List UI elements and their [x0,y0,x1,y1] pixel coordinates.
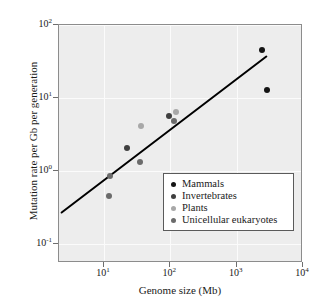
x-axis-tick-label: 104 [285,267,319,278]
legend-entry-unicellular-eukaryotes: Unicellular eukaryotes [171,214,288,226]
y-axis-label: Mutation rate per Gb per generation [27,22,39,260]
x-axis-label: Genome size (Mb) [58,284,302,296]
data-point [107,173,113,179]
data-point [138,123,144,129]
legend-marker-icon [171,194,176,199]
legend-marker-icon [171,182,176,187]
data-point [137,159,143,165]
x-axis-tick-label: 103 [219,267,253,278]
legend-label: Mammals [182,178,224,190]
legend-label: Invertebrates [182,190,237,202]
x-axis-tick-label: 101 [86,267,120,278]
legend-entry-invertebrates: Invertebrates [171,190,288,202]
scatter-plot-figure: 10110210310410210110010-1 Genome size (M… [0,0,320,308]
legend-label: Plants [182,202,208,214]
legend-entry-plants: Plants [171,202,288,214]
legend-marker-icon [171,206,176,211]
legend: MammalsInvertebratesPlantsUnicellular eu… [163,173,294,231]
data-point [264,87,270,93]
legend-entry-mammals: Mammals [171,178,288,190]
legend-marker-icon [171,218,176,223]
y-axis-tick [53,24,58,25]
y-axis-tick [53,243,58,244]
x-axis-tick-label: 102 [152,267,186,278]
y-axis-tick [53,170,58,171]
data-point [106,193,112,199]
data-point [171,118,177,124]
data-point [124,145,130,151]
data-point [259,47,265,53]
y-axis-tick [53,97,58,98]
legend-label: Unicellular eukaryotes [182,214,277,226]
data-point [173,109,179,115]
